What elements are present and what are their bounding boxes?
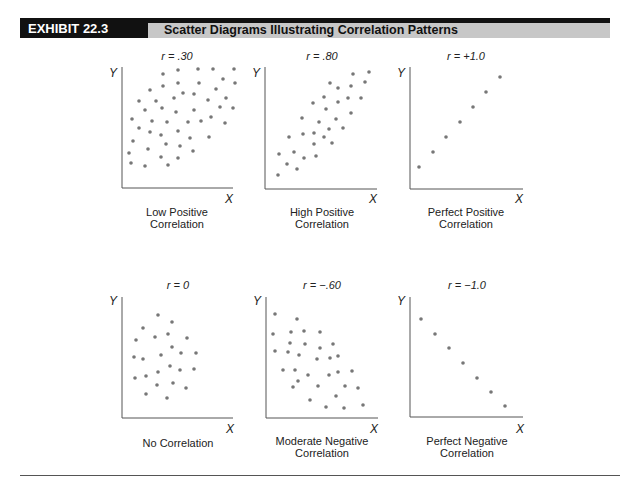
data-point: [484, 90, 488, 94]
data-point: [334, 117, 338, 121]
chart-caption: Correlation: [295, 447, 349, 459]
data-point: [461, 361, 465, 365]
data-point: [161, 72, 165, 76]
data-point: [433, 332, 437, 336]
data-point: [361, 403, 365, 407]
data-point: [367, 70, 371, 74]
data-point: [444, 135, 448, 139]
chart-caption: Low Positive: [146, 206, 208, 218]
data-point: [296, 379, 300, 383]
data-point: [159, 133, 163, 137]
data-point: [232, 67, 236, 71]
data-point: [214, 87, 218, 91]
data-point: [316, 384, 320, 388]
data-point: [196, 67, 200, 71]
data-point: [207, 135, 211, 139]
data-point: [318, 330, 322, 334]
data-point: [349, 84, 353, 88]
data-point: [286, 350, 290, 354]
data-point: [176, 129, 180, 133]
scatter-chart-4: r = 0YXNo Correlation: [109, 279, 235, 449]
data-point: [156, 313, 160, 317]
chart-caption: Correlation: [150, 218, 204, 230]
data-point: [271, 332, 275, 336]
data-point: [192, 92, 196, 96]
y-axis-label: Y: [253, 294, 262, 308]
data-point: [346, 96, 350, 100]
data-point: [218, 105, 222, 109]
data-point: [170, 320, 174, 324]
data-point: [137, 99, 141, 103]
data-point: [295, 167, 299, 171]
data-point: [194, 351, 198, 355]
data-point: [233, 81, 237, 85]
data-point: [132, 355, 136, 359]
x-axis-label: X: [368, 192, 378, 206]
data-point: [331, 342, 335, 346]
data-point: [328, 356, 332, 360]
correlation-coefficient-label: r = 0: [167, 279, 190, 291]
y-axis-label: Y: [397, 66, 406, 80]
chart-caption: Perfect Positive: [428, 206, 504, 218]
bottom-rule: [20, 475, 620, 476]
data-point: [287, 135, 291, 139]
data-point: [176, 81, 180, 85]
data-point: [308, 398, 312, 402]
data-point: [155, 383, 159, 387]
data-point: [302, 329, 306, 333]
data-point: [327, 373, 331, 377]
data-point: [148, 88, 152, 92]
chart-caption: Perfect Negative: [426, 435, 507, 447]
data-point: [285, 162, 289, 166]
data-point: [359, 96, 363, 100]
data-point: [341, 126, 345, 130]
correlation-coefficient-label: r = −1.0: [448, 279, 487, 291]
data-point: [185, 336, 189, 340]
data-point: [293, 368, 297, 372]
data-point: [336, 370, 340, 374]
data-point: [306, 373, 310, 377]
data-point: [192, 108, 196, 112]
data-point: [178, 368, 182, 372]
data-point: [211, 67, 215, 71]
data-point: [129, 161, 133, 165]
data-point: [184, 386, 188, 390]
data-point: [171, 381, 175, 385]
data-point: [350, 369, 354, 373]
data-point: [168, 364, 172, 368]
data-point: [300, 116, 304, 120]
data-point: [336, 86, 340, 90]
scatter-chart-1: r = .30YXLow PositiveCorrelation: [109, 50, 237, 230]
data-point: [312, 142, 316, 146]
data-point: [292, 150, 296, 154]
data-point: [186, 120, 190, 124]
chart-caption: Correlation: [440, 447, 494, 459]
chart-caption: Correlation: [439, 218, 493, 230]
data-point: [503, 404, 507, 408]
x-axis-label: X: [224, 192, 234, 206]
data-point: [170, 345, 174, 349]
data-point: [273, 312, 277, 316]
data-point: [349, 111, 353, 115]
data-point: [188, 136, 192, 140]
correlation-coefficient-label: r = .30: [161, 50, 193, 62]
data-point: [324, 405, 328, 409]
chart-caption: No Correlation: [143, 437, 214, 449]
data-point: [160, 106, 164, 110]
data-point: [334, 394, 338, 398]
correlation-coefficient-label: r = .80: [306, 50, 338, 62]
data-point: [179, 351, 183, 355]
data-point: [191, 149, 195, 153]
data-point: [295, 317, 299, 321]
data-point: [489, 390, 493, 394]
data-point: [303, 342, 307, 346]
data-point: [327, 127, 331, 131]
data-point: [166, 163, 170, 167]
data-point: [302, 156, 306, 160]
data-point: [156, 370, 160, 374]
data-point: [166, 332, 170, 336]
data-point: [330, 141, 334, 145]
data-point: [318, 346, 322, 350]
data-point: [317, 120, 321, 124]
data-point: [343, 384, 347, 388]
